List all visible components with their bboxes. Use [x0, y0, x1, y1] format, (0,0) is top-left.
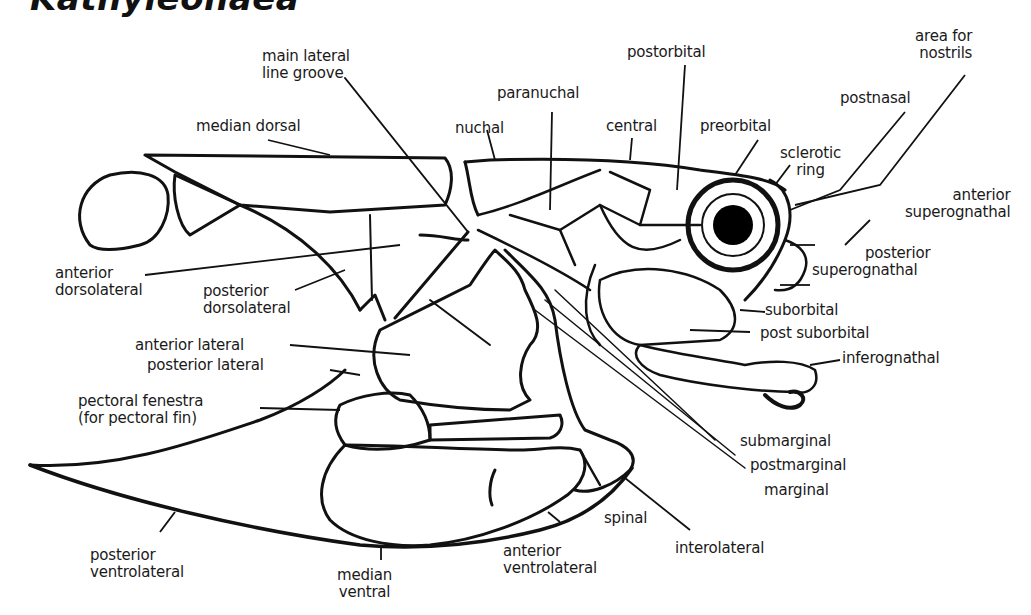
label-spinal: spinal [604, 510, 647, 527]
pectoral-fenestra [336, 393, 430, 449]
label-postorbital: postorbital [627, 44, 705, 61]
label-marginal: marginal [764, 482, 829, 499]
label-paranuchal: paranuchal [497, 85, 579, 102]
label-posterior-lateral: posterior lateral [147, 357, 264, 374]
label-anterior-lateral: anterior lateral [135, 337, 244, 354]
label-posterior-superognathal: posterior superognathal [812, 245, 931, 279]
label-area-for-nostrils: area for nostrils [915, 28, 972, 62]
label-sclerotic-ring: sclerotic ring [780, 145, 841, 179]
rear-oval-plate [80, 172, 169, 249]
label-inferognathal: inferognathal [842, 350, 940, 367]
label-nuchal: nuchal [455, 120, 504, 137]
head-shield-top [465, 159, 785, 190]
label-interolateral: interolateral [675, 540, 764, 557]
label-preorbital: preorbital [700, 118, 771, 135]
label-anterior-dorsolateral: anterior dorsolateral [55, 265, 142, 299]
label-postmarginal: postmarginal [750, 457, 846, 474]
label-median-ventral: median ventral [337, 567, 392, 601]
label-anterior-ventrolateral: anterior ventrolateral [503, 543, 597, 577]
label-submarginal: submarginal [740, 433, 831, 450]
inferognathal-plate [636, 345, 816, 393]
label-posterior-ventrolateral: posterior ventrolateral [90, 547, 184, 581]
label-central: central [606, 118, 657, 135]
label-anterior-superognathal: anterior superognathal [905, 187, 1010, 221]
label-postnasal: postnasal [840, 90, 910, 107]
label-main-lateral-line-groove: main lateral line groove [262, 48, 350, 82]
label-posterior-dorsolateral: posterior dorsolateral [203, 283, 290, 317]
label-suborbital: suborbital [765, 302, 838, 319]
label-pectoral-fenestra: pectoral fenestra (for pectoral fin) [78, 393, 203, 427]
rear-triangle-plate [174, 175, 240, 235]
anterior-lateral-plate [374, 250, 538, 410]
label-median-dorsal: median dorsal [196, 118, 300, 135]
label-post-suborbital: post suborbital [760, 325, 869, 342]
anterior-ventrolateral-plate [322, 445, 585, 546]
